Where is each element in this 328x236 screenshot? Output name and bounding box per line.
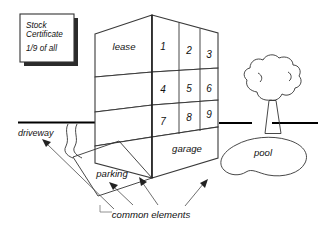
unit-number-8: 8 [186, 112, 192, 123]
unit-number-3: 3 [206, 49, 212, 60]
tree [244, 55, 301, 134]
unit-number-5: 5 [186, 83, 192, 94]
driveway-label: driveway [18, 128, 54, 138]
unit-number-7: 7 [160, 116, 166, 127]
parking-label: parking [95, 168, 128, 179]
garage-label: garage [172, 143, 202, 154]
lease-label: lease [113, 41, 136, 52]
certificate-line-2: Certificate [26, 30, 63, 39]
common-elements-label: common elements [112, 209, 191, 220]
pool-label: pool [253, 147, 273, 158]
building-left-face [95, 15, 152, 178]
unit-number-2: 2 [185, 45, 192, 56]
pool: pool [221, 137, 307, 176]
unit-number-9: 9 [206, 109, 212, 120]
certificate-line-1: Stock [26, 21, 47, 30]
unit-number-6: 6 [206, 83, 212, 94]
stock-certificate-card: Stock Certificate 1/9 of all [20, 14, 78, 66]
driveway-path [65, 124, 82, 158]
certificate-line-3: 1/9 of all [26, 44, 57, 53]
unit-number-1: 1 [160, 41, 166, 52]
unit-number-4: 4 [160, 84, 166, 95]
diagram-canvas: 1 2 3 4 5 6 7 8 9 lease garage parking d… [0, 0, 328, 236]
